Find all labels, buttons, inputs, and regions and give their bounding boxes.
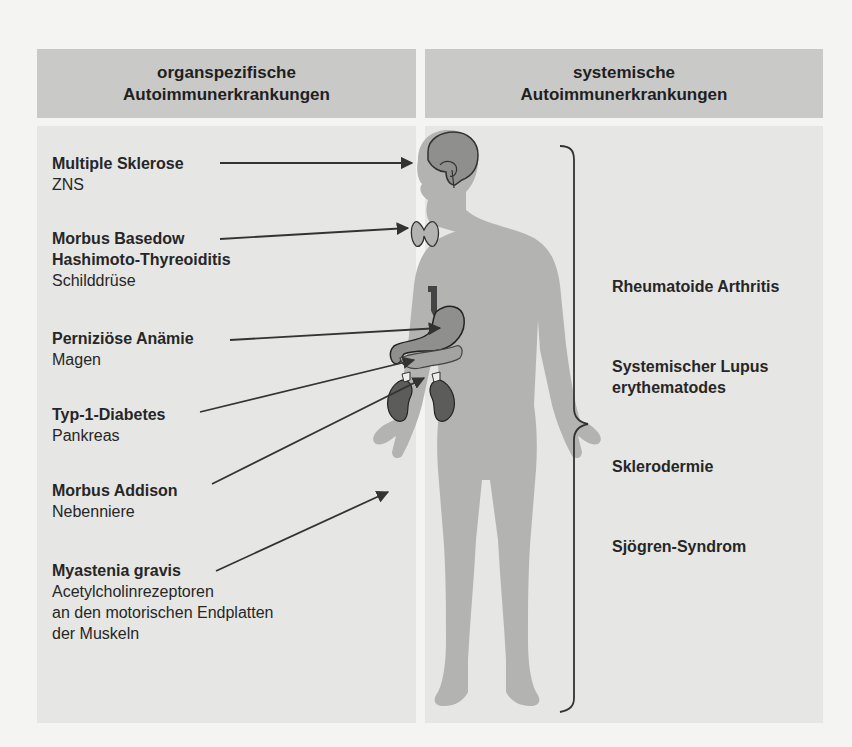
pointer-pancreas	[200, 360, 414, 412]
label-perniziose-anamie: Perniziöse Anämie Magen	[52, 328, 194, 370]
label-morbus-addison: Morbus Addison Nebenniere	[52, 480, 178, 522]
label-schilddruese: Morbus Basedow Hashimoto-Thyreoiditis Sc…	[52, 228, 231, 291]
label-rheumatoide-arthritis: Rheumatoide Arthritis	[612, 276, 779, 297]
thyroid-icon	[411, 222, 438, 247]
pointer-stomach	[230, 328, 440, 340]
pointer-thyroid	[220, 228, 408, 239]
label-myastenia-gravis: Myastenia gravis Acetylcholinrezeptoren …	[52, 560, 273, 644]
pointer-lines	[200, 163, 440, 571]
label-systemischer-lupus: Systemischer Lupus erythematodes	[612, 356, 769, 398]
label-sklerodermie: Sklerodermie	[612, 456, 713, 477]
body-silhouette-icon	[373, 130, 601, 706]
label-typ1-diabetes: Typ-1-Diabetes Pankreas	[52, 404, 166, 446]
label-sjoegren-syndrom: Sjögren-Syndrom	[612, 536, 746, 557]
label-multiple-sklerose: Multiple Sklerose ZNS	[52, 153, 184, 195]
